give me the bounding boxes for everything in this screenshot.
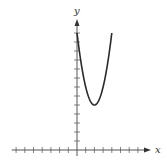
y-axis-label: y: [73, 5, 80, 16]
x-axis-label: x: [155, 144, 161, 155]
parabola-chart: x y: [0, 0, 167, 162]
parabola-curve: [77, 33, 112, 105]
x-axis-arrow-icon: [144, 148, 151, 153]
y-axis-arrow-icon: [75, 19, 80, 26]
